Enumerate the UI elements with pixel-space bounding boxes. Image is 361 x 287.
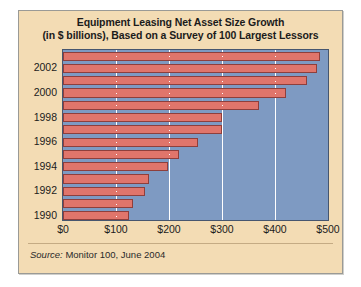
bar-gridline-dot [222,105,223,106]
bar-row [63,138,328,147]
bar-gridline-dot [275,56,276,57]
bar-gridline-dot [169,68,170,69]
bar-1992 [63,187,145,196]
bar-2001 [63,76,307,85]
x-tick-label-0: $0 [57,223,69,235]
bar-gridline-dot [222,93,223,94]
bar-gridline-dot [275,93,276,94]
y-tick-label-1992: 1992 [34,184,57,196]
bar-row [63,162,328,171]
chart-figure: Equipment Leasing Net Asset Size Growth … [18,10,343,274]
y-tick-label-1994: 1994 [34,160,57,172]
bar-gridline-dot [116,167,117,168]
bar-2002 [63,64,317,73]
source-note: Source: Monitor 100, June 2004 [30,249,165,260]
bar-gridline-dot [116,130,117,131]
bar-gridline-dot [116,142,117,143]
bar-row [63,125,328,134]
bar-row [63,199,328,208]
bar-gridline-dot [116,118,117,119]
x-tick-label-300: $300 [210,223,233,235]
bar-row [63,64,328,73]
bar-gridline-dot [116,204,117,205]
bar-1995 [63,150,179,159]
y-tick-label-1996: 1996 [34,135,57,147]
bar-gridline-dot [169,118,170,119]
bar-gridline-dot [116,56,117,57]
bar-row [63,174,328,183]
bar-gridline-dot [222,130,223,131]
bar-1991 [63,199,133,208]
source-text: Monitor 100, June 2004 [65,249,165,260]
bar-row [63,88,328,97]
bar-gridline-dot [169,93,170,94]
bar-row [63,76,328,85]
bar-gridline-dot [116,216,117,217]
x-tick-label-100: $100 [104,223,127,235]
x-axis: $0$100$200$300$400$500 [62,223,329,239]
y-tick-label-1990: 1990 [34,209,57,221]
bar-gridline-dot [116,179,117,180]
bar-gridline-dot [222,56,223,57]
bar-row [63,52,328,61]
bar-row [63,101,328,110]
bar-1993 [63,174,149,183]
bar-1999 [63,101,259,110]
bar-gridline-dot [169,154,170,155]
bar-gridline-dot [116,68,117,69]
bar-gridline-dot [116,154,117,155]
bar-1998 [63,113,222,122]
bar-1990 [63,211,129,220]
bar-gridline-dot [169,142,170,143]
bar-gridline-dot [275,81,276,82]
bar-gridline-dot [169,130,170,131]
bar-1997 [63,125,222,134]
source-divider [28,243,333,244]
chart-title-line-2: (in $ billions), Based on a Survey of 10… [19,29,342,42]
bar-gridline-dot [169,56,170,57]
bar-gridline-dot [169,81,170,82]
bar-row [63,150,328,159]
bar-gridline-dot [222,81,223,82]
y-tick-label-1998: 1998 [34,111,57,123]
bar-row [63,187,328,196]
bar-gridline-dot [222,118,223,119]
bar-2003 [63,52,320,61]
bar-gridline-dot [116,191,117,192]
bar-row [63,211,328,220]
x-tick-label-500: $500 [316,223,339,235]
y-axis: 2002200019981996199419921990 [19,49,59,221]
bar-gridline-dot [116,105,117,106]
bar-gridline-dot [169,105,170,106]
x-tick-label-400: $400 [263,223,286,235]
x-tick-label-200: $200 [157,223,180,235]
bar-2000 [63,88,286,97]
bar-row [63,113,328,122]
y-tick-label-2002: 2002 [34,61,57,73]
plot-wrapper [62,49,329,221]
bar-gridline-dot [275,68,276,69]
bar-gridline-dot [222,68,223,69]
chart-title-line-1: Equipment Leasing Net Asset Size Growth [19,16,342,29]
y-tick-label-2000: 2000 [34,86,57,98]
source-label: Source: [30,249,63,260]
bar-gridline-dot [116,93,117,94]
bar-gridline-dot [116,81,117,82]
plot-area [62,49,329,221]
bar-1996 [63,138,198,147]
chart-title: Equipment Leasing Net Asset Size Growth … [19,16,342,41]
